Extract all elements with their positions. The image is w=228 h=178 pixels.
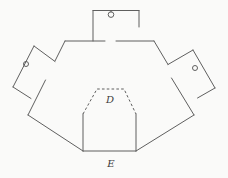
label-e: E [106, 158, 115, 169]
top-flap-hole [108, 12, 114, 18]
right-flap-outer-edge [193, 50, 215, 88]
main-upper-right-slope-b [172, 78, 195, 115]
main-lower-left-slope [28, 115, 83, 151]
right-flap-hole [193, 66, 198, 71]
label-d: D [105, 94, 114, 105]
diagram-page: DE [0, 0, 228, 178]
main-lower-right-slope [136, 115, 194, 151]
main-upper-left-slope-b [55, 41, 65, 61]
left-flap-outer-edge [13, 46, 34, 87]
right-flap-top-edge [168, 50, 193, 65]
main-upper-left-slope-a [28, 80, 46, 115]
right-flap-bottom-edge [198, 88, 216, 98]
left-flap-top-edge [34, 46, 55, 62]
net-diagram: DE [0, 0, 228, 178]
left-flap-bottom-edge [13, 87, 31, 99]
main-upper-right-slope-a [154, 41, 168, 65]
